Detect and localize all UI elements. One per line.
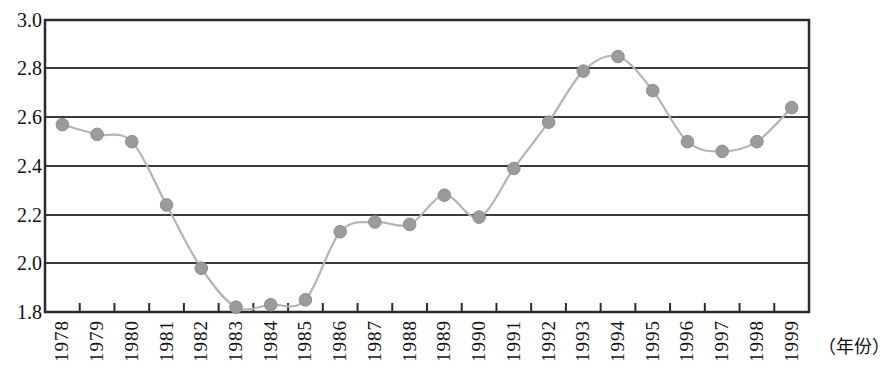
x-tick-label: 1984 — [261, 320, 280, 362]
x-tick-label: 1986 — [330, 320, 349, 362]
data-point — [56, 118, 69, 131]
x-tick-label: 1980 — [122, 320, 141, 362]
x-tick-label: 1998 — [747, 320, 766, 362]
data-point — [230, 301, 243, 314]
data-point — [160, 199, 173, 212]
x-tick-label: 1983 — [226, 320, 245, 362]
x-tick-label: 1979 — [87, 320, 106, 362]
data-point — [785, 101, 798, 114]
x-tick-label: 1995 — [643, 320, 662, 362]
x-tick-label: 1990 — [469, 320, 488, 362]
x-tick-label: 1994 — [608, 320, 627, 362]
x-tick-label: 1982 — [191, 320, 210, 362]
series-markers — [56, 50, 798, 313]
data-point — [612, 50, 625, 63]
data-point — [264, 298, 277, 311]
data-point — [438, 189, 451, 202]
data-point — [508, 162, 521, 175]
x-tick-label: 1981 — [157, 320, 176, 362]
data-point — [195, 262, 208, 275]
data-point — [473, 211, 486, 224]
data-point — [542, 116, 555, 129]
x-tick-label: 1988 — [400, 320, 419, 362]
data-point — [681, 135, 694, 148]
x-tick-label: 1996 — [677, 320, 696, 362]
x-tick-label: 1978 — [52, 320, 71, 362]
x-tick-label: 1987 — [365, 320, 384, 362]
x-tick-label: 1997 — [712, 320, 731, 362]
x-axis-caption: （年份） — [818, 332, 883, 358]
data-point — [751, 135, 764, 148]
data-point — [299, 294, 312, 307]
data-point — [369, 216, 382, 229]
data-point — [716, 145, 729, 158]
data-point — [577, 65, 590, 78]
x-tick-label: 1993 — [573, 320, 592, 362]
data-point — [646, 84, 659, 97]
gridlines — [45, 68, 809, 263]
data-point — [126, 135, 139, 148]
x-axis-ticks — [80, 303, 775, 312]
data-point — [91, 128, 104, 141]
x-tick-label: 1992 — [539, 320, 558, 362]
x-tick-label: 1999 — [782, 320, 801, 362]
series-line — [62, 56, 791, 310]
data-point — [403, 218, 416, 231]
data-point — [334, 225, 347, 238]
x-tick-label: 1985 — [295, 320, 314, 362]
x-tick-label: 1991 — [504, 320, 523, 362]
x-tick-label: 1989 — [434, 320, 453, 362]
